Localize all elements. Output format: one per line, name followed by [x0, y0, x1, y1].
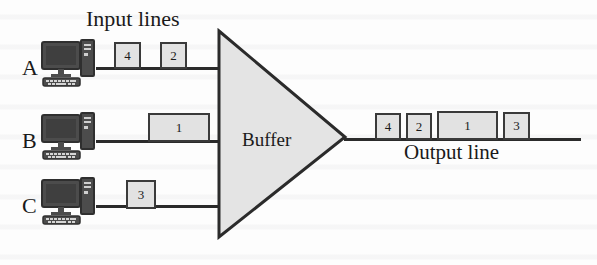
packet-b-1: 1	[148, 113, 210, 142]
computer-icon-c	[40, 177, 98, 225]
output-packet-3: 1	[437, 111, 498, 140]
output-packet-4: 3	[503, 112, 530, 140]
output-line-title: Output line	[404, 142, 499, 163]
host-label-c: C	[22, 195, 37, 217]
host-label-b: B	[22, 130, 37, 152]
host-label-a: A	[22, 57, 38, 79]
packet-a-1: 4	[114, 42, 141, 69]
input-lines-title: Input lines	[86, 8, 180, 30]
packet-c-1: 3	[126, 180, 156, 209]
computer-icon-b	[40, 112, 98, 160]
computer-icon-a	[40, 39, 98, 87]
buffer-label: Buffer	[242, 130, 291, 149]
figure-buffer-diagram: Input lines Output line Buffer A	[0, 0, 597, 265]
packet-a-2: 2	[160, 42, 187, 69]
input-line-c	[96, 205, 220, 208]
output-packet-2: 2	[406, 113, 432, 140]
output-packet-1: 4	[375, 113, 401, 140]
